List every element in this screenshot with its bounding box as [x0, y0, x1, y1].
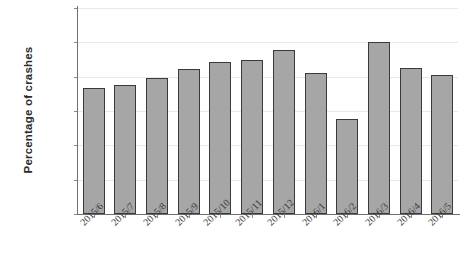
y-axis-title: Percentage of crashes: [22, 20, 34, 200]
bar-slot: [363, 8, 395, 214]
bar[interactable]: [146, 78, 168, 214]
x-label-slot: 2016/2: [331, 218, 363, 264]
bar[interactable]: [368, 42, 390, 214]
bar[interactable]: [273, 50, 295, 214]
bar-series: [78, 8, 458, 214]
x-label-slot: 2015/7: [110, 218, 142, 264]
bar-slot: [110, 8, 142, 214]
bar-slot: [205, 8, 237, 214]
bar[interactable]: [431, 75, 453, 214]
bar-slot: [141, 8, 173, 214]
x-label-slot: 2015/10: [205, 218, 237, 264]
x-label-slot: 2015/8: [141, 218, 173, 264]
plot-area: 0.00%2.00%4.00%6.00%8.00%10.00%12.00%: [78, 8, 458, 214]
bar[interactable]: [114, 85, 136, 214]
x-axis-labels: 2015/62015/72015/82015/92015/102015/1120…: [78, 218, 458, 264]
x-label-slot: 2015/12: [268, 218, 300, 264]
bar-chart: Percentage of crashes 0.00%2.00%4.00%6.0…: [0, 0, 473, 268]
bar[interactable]: [178, 69, 200, 214]
bar-slot: [426, 8, 458, 214]
bar[interactable]: [400, 68, 422, 214]
bar-slot: [395, 8, 427, 214]
x-label-slot: 2016/4: [395, 218, 427, 264]
bar-slot: [300, 8, 332, 214]
bar[interactable]: [209, 62, 231, 214]
x-label-slot: 2015/11: [236, 218, 268, 264]
bar-slot: [78, 8, 110, 214]
bar-slot: [173, 8, 205, 214]
x-label-slot: 2016/3: [363, 218, 395, 264]
bar[interactable]: [83, 88, 105, 214]
bar[interactable]: [241, 60, 263, 214]
x-label-slot: 2016/1: [300, 218, 332, 264]
bar[interactable]: [336, 119, 358, 214]
bar-slot: [236, 8, 268, 214]
x-label-slot: 2015/9: [173, 218, 205, 264]
bar-slot: [268, 8, 300, 214]
x-label-slot: 2015/6: [78, 218, 110, 264]
x-label-slot: 2016/5: [426, 218, 458, 264]
bar-slot: [331, 8, 363, 214]
bar[interactable]: [305, 73, 327, 214]
